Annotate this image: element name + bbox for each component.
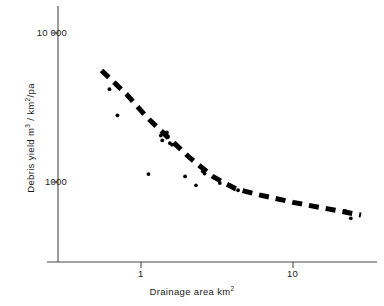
data-point [108,87,112,91]
data-point [343,209,347,213]
plot-canvas [0,0,384,306]
x-axis-unit-superscript: 2 [231,285,235,292]
y-axis-title-suffix: /pa [25,83,36,97]
y-axis-tick-label-1000: 1000 [45,176,67,187]
trend-line [102,71,361,216]
data-point [115,83,119,87]
x-axis-tick-label-1: 1 [138,268,143,279]
axes-group [47,6,377,268]
data-point [236,188,240,192]
y-axis-title-text: Debris yield m [25,128,36,193]
x-axis-title-text: Drainage area km [149,286,230,297]
data-point [159,134,163,138]
x-axis-title: Drainage area km2 [0,286,384,297]
y-axis-unit-superscript-cubic: 3 [23,124,30,128]
data-point [218,181,222,185]
y-axis-title: Debris yield m3 / km2/pa [25,83,36,193]
data-point [203,172,207,176]
data-point [165,131,169,135]
y-axis-tick-label-10000: 10 000 [37,27,67,38]
data-point [166,135,170,139]
data-point [147,172,151,176]
chart-figure: 10 000 1000 1 10 Drainage area km2 Debri… [0,0,384,306]
data-point [170,143,174,147]
x-axis-tick-label-10: 10 [287,268,298,279]
data-point [349,216,353,220]
y-axis-unit-superscript-square: 2 [23,97,30,101]
data-point [160,139,164,143]
y-axis-title-divider: / km [25,101,36,123]
data-point [194,183,198,187]
data-point [183,175,187,179]
y-axis-title-wrapper: Debris yield m3 / km2/pa [22,28,38,248]
data-point [116,113,120,117]
trend-line-path [102,71,361,216]
data-points [108,81,353,220]
